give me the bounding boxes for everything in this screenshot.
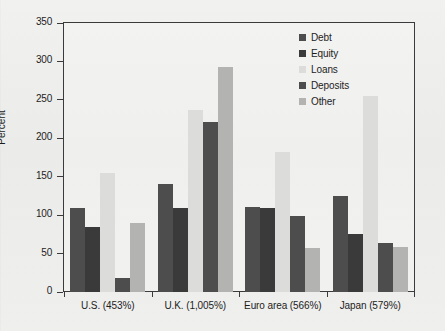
legend-item-label: Deposits: [311, 80, 349, 91]
bar: [203, 122, 218, 292]
legend-swatch-icon: [299, 66, 306, 73]
chart-screenshot: Percent 050100150200250300350 U.S. (453%…: [0, 0, 445, 331]
bar: [70, 208, 85, 292]
y-axis-tick-label: 300: [36, 54, 52, 65]
y-axis-tick-label: 100: [36, 208, 52, 219]
legend-item: Deposits: [299, 77, 379, 93]
bar: [290, 216, 305, 292]
legend-swatch-icon: [299, 50, 306, 57]
legend-item-label: Debt: [311, 32, 332, 43]
legend-swatch-icon: [299, 34, 306, 41]
legend-swatch-icon: [299, 98, 306, 105]
x-axis-category-label: U.K. (1,005%): [164, 300, 226, 311]
x-axis-category-label: Japan (579%): [340, 300, 401, 311]
y-axis-tick-label: 350: [36, 16, 52, 27]
bar: [100, 173, 115, 292]
y-axis-tick-label: 0: [47, 285, 52, 296]
bar: [245, 207, 260, 292]
bar: [275, 152, 290, 292]
legend-item-label: Equity: [311, 48, 338, 59]
x-axis-tick-mark: [414, 292, 415, 297]
y-axis-title: Percent: [0, 110, 7, 144]
legend-item-label: Other: [311, 96, 336, 107]
bar: [348, 234, 363, 292]
bar: [378, 243, 393, 292]
x-axis-tick-mark: [327, 292, 328, 297]
x-axis-tick-mark: [64, 292, 65, 297]
bar: [363, 96, 378, 292]
x-axis-category-label: Euro area (566%): [244, 300, 321, 311]
legend-item: Debt: [299, 29, 379, 45]
bar: [333, 196, 348, 292]
bar: [305, 248, 320, 292]
bar: [393, 247, 408, 292]
bar: [218, 67, 233, 292]
legend-item-label: Loans: [311, 64, 338, 75]
bar: [188, 110, 203, 292]
y-axis-tick-label: 50: [41, 247, 52, 258]
bar: [260, 208, 275, 292]
legend-item: Equity: [299, 45, 379, 61]
y-axis-tick-label: 150: [36, 170, 52, 181]
y-axis-tick-label: 250: [36, 93, 52, 104]
legend-swatch-icon: [299, 82, 306, 89]
legend-item: Loans: [299, 61, 379, 77]
bar: [158, 184, 173, 292]
x-axis-category-label: U.S. (453%): [81, 300, 134, 311]
bar: [130, 223, 145, 292]
legend-item: Other: [299, 93, 379, 109]
chart-legend: DebtEquityLoansDepositsOther: [299, 29, 379, 109]
x-axis-tick-mark: [152, 292, 153, 297]
y-axis-tick-label: 200: [36, 131, 52, 142]
x-axis-tick-mark: [239, 292, 240, 297]
bar: [85, 227, 100, 292]
bar: [115, 278, 130, 292]
bar: [173, 208, 188, 292]
